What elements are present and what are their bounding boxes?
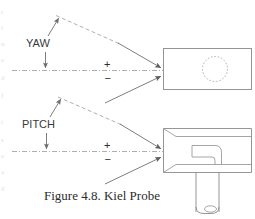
pitch-label-leader-up <box>50 100 61 118</box>
svg-text:d: d <box>1 74 5 82</box>
probe-side-view <box>164 129 252 214</box>
yaw-label: YAW <box>26 37 50 49</box>
pitch-plus-sign: + <box>104 139 110 151</box>
yaw-label-leader-up <box>48 19 59 37</box>
kiel-probe-figure: YAW + − PITCH + − <box>0 0 255 219</box>
probe-stem-tip-ellipse <box>205 206 217 212</box>
pitch-negative-arrow <box>105 158 161 185</box>
probe-stem-rounded-tip <box>196 207 219 214</box>
yaw-minus-sign: − <box>105 72 111 84</box>
probe-shroud-outline <box>164 129 252 173</box>
svg-text:f: f <box>1 92 4 100</box>
svg-text:t: t <box>1 118 3 126</box>
yaw-negative-arrow <box>105 77 161 104</box>
probe-internal-tube-inner <box>192 146 215 165</box>
pitch-positive-arrow <box>120 124 161 149</box>
yaw-plus-sign: + <box>104 58 110 70</box>
pitch-panel: PITCH + − <box>12 97 163 184</box>
probe-front-shroud-circle <box>203 57 228 82</box>
figure-caption: Figure 4.8. Kiel Probe <box>44 188 160 203</box>
figure-page: YAW + − PITCH + − <box>0 0 255 219</box>
probe-front-outline <box>164 49 252 90</box>
yaw-reference-dashed-line <box>56 16 120 45</box>
svg-text:a: a <box>1 168 5 176</box>
yaw-positive-arrow <box>118 43 161 68</box>
svg-text:n: n <box>1 40 5 48</box>
probe-internal-tube-outer <box>192 146 222 165</box>
pitch-reference-dashed-line <box>58 97 122 125</box>
svg-text:s: s <box>1 136 4 144</box>
pitch-label: PITCH <box>22 118 55 130</box>
yaw-panel: YAW + − <box>12 16 163 104</box>
svg-text:r: r <box>1 8 4 16</box>
probe-chamfer-bottom <box>164 165 176 173</box>
svg-text:e: e <box>1 152 4 160</box>
svg-text:g: g <box>1 184 5 192</box>
pitch-minus-sign: − <box>105 153 111 165</box>
svg-text:e: e <box>1 56 4 64</box>
svg-text:i: i <box>1 24 3 32</box>
left-margin-text-bleed: r i n e d f t s e a g <box>1 8 5 192</box>
probe-front-view <box>164 49 252 90</box>
probe-chamfer-top <box>164 129 176 137</box>
